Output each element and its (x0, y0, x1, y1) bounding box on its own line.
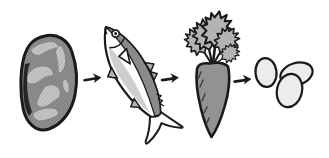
eggs-illustration (254, 57, 315, 110)
illustration-canvas (0, 0, 329, 158)
arrow-right-icon (162, 73, 179, 84)
meat-illustration (21, 35, 77, 130)
arrow-right-icon (84, 73, 102, 84)
carrot-illustration (180, 9, 245, 137)
meat-hatch-texture (21, 35, 77, 130)
arrow-right-icon (234, 74, 251, 85)
carrot-root (196, 63, 229, 137)
food-sequence-illustration (0, 0, 329, 158)
egg-left (254, 57, 278, 88)
